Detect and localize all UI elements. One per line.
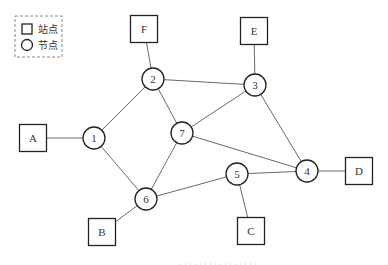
station-D: D [346,158,373,185]
station-B: B [89,219,116,246]
station-label: E [251,25,258,37]
node-2: 2 [142,68,164,90]
node-4: 4 [296,160,318,182]
edge-3-4 [255,85,307,171]
node-6: 6 [135,188,157,210]
legend-circle-icon [22,40,33,51]
station-label: F [141,23,147,35]
node-label: 1 [91,132,97,144]
station-A: A [20,125,47,152]
node-5: 5 [226,163,248,185]
node-label: 7 [179,127,185,139]
edge-1-2 [94,79,153,138]
legend: 站点 节点 [15,16,62,57]
edge-1-6 [94,138,146,199]
legend-square-icon [22,24,32,34]
station-label: D [355,165,363,177]
edge-6-5 [146,174,237,199]
network-diagram: ABCDEF 1234567 站点 节点 [0,0,388,265]
node-7: 7 [171,122,193,144]
station-label: B [98,226,105,238]
edge-2-3 [153,79,255,85]
node-label: 4 [304,165,310,177]
edge-3-7 [182,85,255,133]
station-F: F [131,16,158,43]
station-label: C [247,225,254,237]
node-label: 2 [150,73,156,85]
node-1: 1 [83,127,105,149]
stations-layer: ABCDEF [20,16,373,246]
node-label: 6 [143,193,149,205]
station-E: E [241,18,268,45]
station-C: C [238,218,265,245]
legend-station-label: 站点 [38,23,58,35]
node-label: 3 [252,79,258,91]
edges-layer [33,29,359,232]
node-label: 5 [234,168,240,180]
node-3: 3 [244,74,266,96]
station-label: A [29,132,37,144]
legend-node-label: 节点 [38,40,58,51]
